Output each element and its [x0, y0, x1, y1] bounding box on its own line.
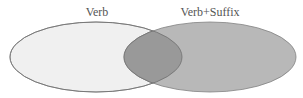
set-label-verb-suffix: Verb+Suffix [180, 5, 239, 19]
venn-diagram: Verb Verb+Suffix [0, 0, 303, 98]
set-label-verb: Verb [86, 5, 109, 19]
